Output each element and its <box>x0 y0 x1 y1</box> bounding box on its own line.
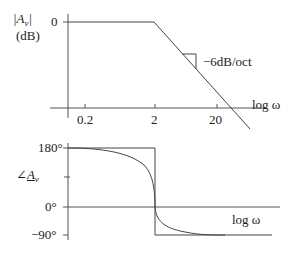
x-tick-0.2: 0.2 <box>77 113 93 127</box>
slope-annotation: −6dB/oct <box>203 55 252 69</box>
phase-curve <box>68 148 225 235</box>
y-tick-0deg: 0° <box>45 200 57 214</box>
phase-ylabel: ∠Av <box>16 168 39 186</box>
y-tick-neg90: −90° <box>31 228 57 242</box>
phase-xlabel: log ω <box>232 213 260 227</box>
magnitude-curve <box>68 22 250 129</box>
magnitude-ylabel-unit: (dB) <box>16 29 40 43</box>
x-tick-20: 20 <box>209 113 222 127</box>
magnitude-xlabel: log ω <box>252 98 280 112</box>
y-tick-180: 180° <box>38 141 63 155</box>
y-tick-0db: 0 <box>51 15 58 29</box>
x-tick-2: 2 <box>151 113 158 127</box>
